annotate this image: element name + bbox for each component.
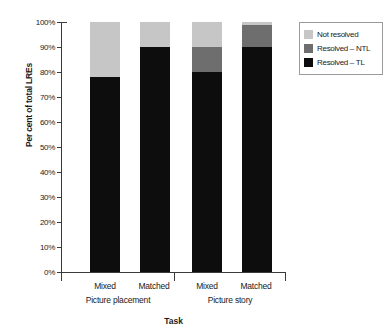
y-tick-label-20: 20% bbox=[25, 218, 55, 227]
x-tick-label-matched-story: Matched bbox=[226, 281, 286, 291]
x-axis-separator-right bbox=[285, 272, 286, 281]
bar-segment-not-resolved bbox=[90, 22, 120, 77]
y-tick-label-100: 100% bbox=[25, 18, 55, 27]
chart-legend: Not resolved Resolved – NTL Resolved – T… bbox=[299, 22, 383, 75]
x-group-label-picture-story: Picture story bbox=[165, 295, 295, 305]
legend-item-resolved-tl: Resolved – TL bbox=[304, 56, 378, 69]
bar-segment-not-resolved bbox=[192, 22, 222, 47]
y-tick-label-60: 60% bbox=[25, 118, 55, 127]
legend-label-resolved-tl: Resolved – TL bbox=[317, 58, 365, 67]
bar-matched-picture-placement bbox=[140, 22, 170, 272]
y-tick-label-10: 10% bbox=[25, 243, 55, 252]
bar-mixed-picture-placement bbox=[90, 22, 120, 272]
bar-segment-resolved-tl bbox=[192, 72, 222, 272]
legend-item-resolved-ntl: Resolved – NTL bbox=[304, 42, 378, 55]
x-group-label-picture-placement: Picture placement bbox=[53, 295, 183, 305]
bar-segment-resolved-tl bbox=[90, 77, 120, 272]
y-tick-label-30: 30% bbox=[25, 193, 55, 202]
x-tick-label-matched-placement: Matched bbox=[124, 281, 184, 291]
legend-label-resolved-ntl: Resolved – NTL bbox=[317, 44, 370, 53]
bar-segment-not-resolved bbox=[140, 22, 170, 47]
legend-swatch-dark-icon bbox=[304, 58, 313, 67]
plot-area bbox=[61, 22, 285, 272]
y-tick-label-50: 50% bbox=[25, 143, 55, 152]
bar-segment-resolved-ntl bbox=[242, 25, 272, 47]
bar-segment-resolved-tl bbox=[242, 47, 272, 272]
x-axis-separator-left bbox=[61, 272, 62, 281]
bar-matched-picture-story bbox=[242, 22, 272, 272]
y-tick-label-40: 40% bbox=[25, 168, 55, 177]
y-tick-label-90: 90% bbox=[25, 43, 55, 52]
legend-label-not-resolved: Not resolved bbox=[317, 30, 358, 39]
legend-swatch-medium-icon bbox=[304, 44, 313, 53]
bar-segment-resolved-ntl bbox=[192, 47, 222, 72]
x-axis-title: Task bbox=[61, 316, 286, 326]
y-tick-label-0: 0% bbox=[25, 268, 55, 277]
x-axis-separator-middle bbox=[174, 272, 175, 281]
stacked-bar-chart: Per cent of total LREs 100% 90% 80% 70% … bbox=[0, 0, 388, 333]
y-tick-label-80: 80% bbox=[25, 68, 55, 77]
legend-item-not-resolved: Not resolved bbox=[304, 28, 378, 41]
legend-swatch-light-icon bbox=[304, 30, 313, 39]
y-tick-label-70: 70% bbox=[25, 93, 55, 102]
bar-mixed-picture-story bbox=[192, 22, 222, 272]
bar-segment-resolved-tl bbox=[140, 47, 170, 272]
